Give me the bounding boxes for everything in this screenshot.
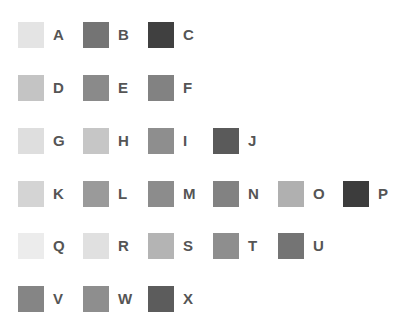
color-swatch	[18, 75, 44, 101]
color-swatch	[83, 233, 109, 259]
swatch-label: W	[118, 290, 132, 308]
color-swatch	[18, 233, 44, 259]
swatch-label: R	[118, 237, 129, 255]
color-swatch	[213, 233, 239, 259]
swatch-label: K	[53, 185, 64, 203]
swatch-label: L	[118, 185, 127, 203]
color-swatch	[83, 75, 109, 101]
swatch-label: A	[53, 26, 64, 44]
swatch-item-s: S	[148, 233, 208, 260]
color-swatch	[148, 286, 174, 312]
swatch-label: V	[53, 290, 63, 308]
swatch-item-l: L	[83, 181, 143, 208]
color-swatch	[148, 128, 174, 154]
swatch-label: D	[53, 79, 64, 97]
swatch-item-x: X	[148, 286, 208, 313]
swatch-label: T	[248, 237, 257, 255]
color-swatch	[148, 181, 174, 207]
color-swatch	[213, 181, 239, 207]
color-swatch	[148, 233, 174, 259]
swatch-item-c: C	[148, 22, 208, 49]
swatch-item-f: F	[148, 75, 208, 102]
color-swatch	[83, 128, 109, 154]
swatch-label: I	[183, 132, 187, 150]
color-swatch	[213, 128, 239, 154]
color-swatch	[278, 233, 304, 259]
swatch-item-m: M	[148, 181, 208, 208]
color-swatch	[18, 22, 44, 48]
swatch-label: U	[313, 237, 324, 255]
swatch-label: P	[378, 185, 388, 203]
swatch-item-p: P	[343, 181, 403, 208]
color-swatch	[18, 286, 44, 312]
swatch-item-k: K	[18, 181, 78, 208]
color-swatch	[83, 286, 109, 312]
swatch-item-t: T	[213, 233, 273, 260]
swatch-item-e: E	[83, 75, 143, 102]
swatch-label: E	[118, 79, 128, 97]
swatch-item-j: J	[213, 128, 273, 155]
color-swatch	[83, 181, 109, 207]
swatch-item-h: H	[83, 128, 143, 155]
swatch-label: F	[183, 79, 192, 97]
swatch-item-n: N	[213, 181, 273, 208]
color-swatch	[18, 181, 44, 207]
color-swatch	[83, 22, 109, 48]
swatch-item-r: R	[83, 233, 143, 260]
swatch-label: M	[183, 185, 196, 203]
color-swatch	[148, 22, 174, 48]
swatch-item-i: I	[148, 128, 208, 155]
color-swatch	[148, 75, 174, 101]
swatch-label: J	[248, 132, 256, 150]
swatch-label: S	[183, 237, 193, 255]
swatch-label: N	[248, 185, 259, 203]
color-swatch	[18, 128, 44, 154]
color-swatch	[343, 181, 369, 207]
swatch-label: H	[118, 132, 129, 150]
swatch-label: Q	[53, 237, 65, 255]
swatch-item-b: B	[83, 22, 143, 49]
swatch-item-a: A	[18, 22, 78, 49]
swatch-item-q: Q	[18, 233, 78, 260]
swatch-label: X	[183, 290, 193, 308]
swatch-label: C	[183, 26, 194, 44]
swatch-label: G	[53, 132, 65, 150]
swatch-label: O	[313, 185, 325, 203]
swatch-item-g: G	[18, 128, 78, 155]
swatch-item-d: D	[18, 75, 78, 102]
swatch-label: B	[118, 26, 129, 44]
swatch-item-o: O	[278, 181, 338, 208]
swatch-item-v: V	[18, 286, 78, 313]
color-swatch	[278, 181, 304, 207]
swatch-item-u: U	[278, 233, 338, 260]
swatch-item-w: W	[83, 286, 143, 313]
